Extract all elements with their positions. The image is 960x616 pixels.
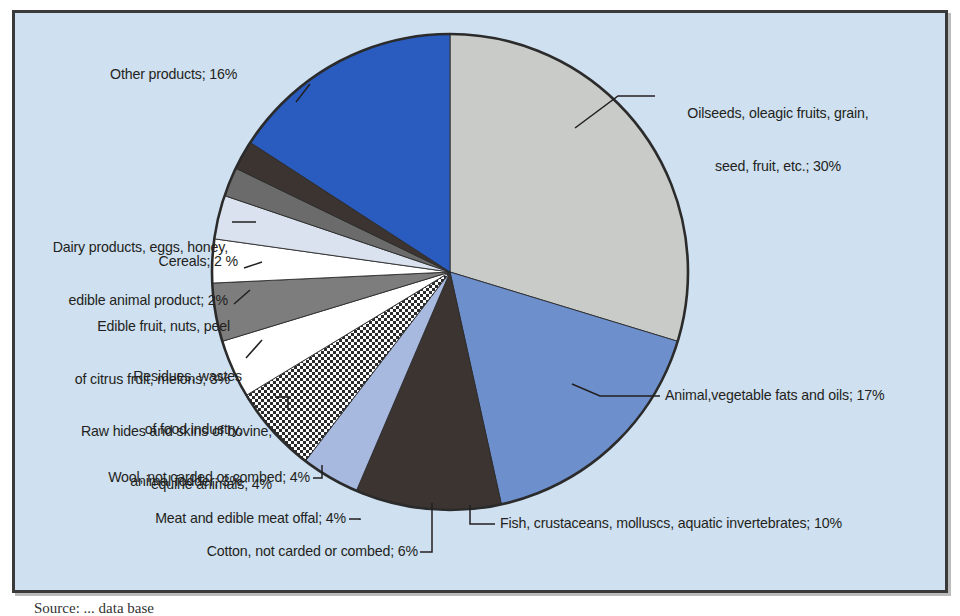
label-dairy-line1: Dairy products, eggs, honey, xyxy=(20,239,228,257)
figure-caption: Source: ... data base xyxy=(34,600,154,616)
label-other: Other products; 16% xyxy=(110,66,237,84)
label-residues-line3: animal fodder; 3% xyxy=(20,473,242,491)
label-oilseeds: Oilseeds, oleagic fruits, grain, seed, f… xyxy=(658,70,898,210)
label-residues-line2: of food industry, xyxy=(20,421,242,439)
label-fish: Fish, crustaceans, molluscs, aquatic inv… xyxy=(500,515,842,533)
figure-container: Oilseeds, oleagic fruits, grain, seed, f… xyxy=(0,0,960,616)
label-fruit-line2: of citrus fruit, melons; 3% xyxy=(20,371,230,389)
label-oilseeds-line2: seed, fruit, etc.; 30% xyxy=(658,158,898,176)
leader-meat xyxy=(349,519,360,520)
label-dairy-line2: edible animal product; 2% xyxy=(20,292,228,310)
label-cotton: Cotton, not carded or combed; 6% xyxy=(100,543,418,561)
label-fats-oils: Animal,vegetable fats and oils; 17% xyxy=(665,387,885,405)
pie-slices xyxy=(212,34,688,510)
label-dairy: Dairy products, eggs, honey, edible anim… xyxy=(20,204,228,344)
label-oilseeds-line1: Oilseeds, oleagic fruits, grain, xyxy=(658,105,898,123)
